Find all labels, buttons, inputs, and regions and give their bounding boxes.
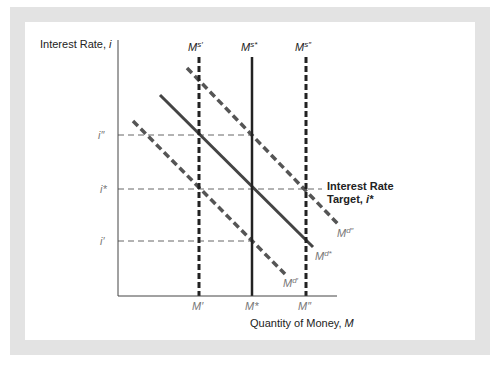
- tick-m-double-prime: M″: [298, 300, 312, 312]
- label-md-star: Md*: [315, 249, 333, 262]
- tick-i-prime: i′: [100, 235, 105, 247]
- label-ms-star: Ms*: [241, 40, 258, 53]
- target-label: Interest RateTarget, i*: [327, 180, 394, 205]
- money-market-diagram: Interest Rate, i Quantity of Money, M Ms…: [0, 0, 502, 366]
- tick-m-star: M*: [245, 300, 259, 312]
- label-ms-prime: Ms′: [188, 40, 203, 53]
- label-md-prime: Md′: [283, 276, 299, 289]
- y-axis-label: Interest Rate, i: [40, 38, 112, 50]
- label-md-double-prime: Md″: [337, 226, 355, 239]
- tick-i-star: i*: [100, 183, 107, 195]
- tick-i-double-prime: i″: [98, 129, 105, 141]
- x-axis-label: Quantity of Money, M: [250, 317, 355, 329]
- tick-m-prime: M′: [192, 300, 204, 312]
- label-ms-double-prime: Ms″: [295, 40, 312, 53]
